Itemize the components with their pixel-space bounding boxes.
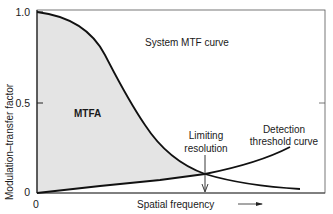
y-axis-label: Modulation–transfer factor	[4, 83, 15, 200]
xlabel-arrow-head-icon	[256, 202, 263, 206]
detection-label-2: threshold curve	[250, 136, 319, 147]
y-tick-label-05: 0.5	[15, 97, 30, 109]
limiting-label-1: Limiting	[189, 130, 223, 141]
mtf-curve-label: System MTF curve	[145, 37, 229, 48]
x-axis-label: Spatial frequency	[137, 199, 214, 210]
limiting-label-2: resolution	[184, 143, 227, 154]
x-tick-label-0: 0	[33, 198, 39, 210]
y-tick-label-0: 0	[24, 186, 30, 198]
mtfa-label: MTFA	[74, 108, 101, 119]
mtf-chart: System MTF curve MTFA Limiting resolutio…	[0, 0, 333, 214]
y-tick-label-1: 1.0	[15, 6, 30, 18]
detection-label-1: Detection	[263, 124, 305, 135]
